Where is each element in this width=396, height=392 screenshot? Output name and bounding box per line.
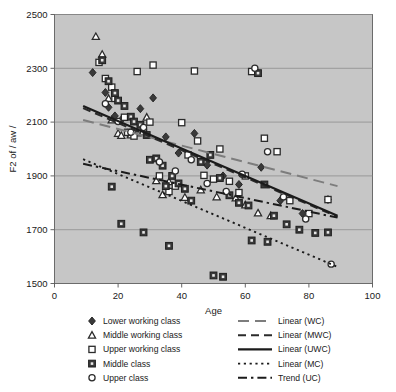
point-4-6 bbox=[188, 157, 194, 163]
point-3-37-core bbox=[266, 241, 269, 244]
point-2-27 bbox=[191, 68, 197, 74]
point-3-23-core bbox=[257, 72, 260, 75]
point-3-33-core bbox=[168, 245, 171, 248]
legend-marker-0 bbox=[89, 317, 96, 325]
point-2-17 bbox=[217, 146, 223, 152]
point-4-10 bbox=[252, 65, 258, 71]
point-3-32-core bbox=[142, 231, 145, 234]
x-tick-label-20: 20 bbox=[113, 290, 124, 301]
point-3-25-core bbox=[273, 214, 276, 217]
x-tick-label-60: 60 bbox=[240, 290, 251, 301]
point-2-12 bbox=[179, 120, 185, 126]
point-3-5-core bbox=[130, 115, 133, 118]
point-2-8 bbox=[147, 119, 153, 125]
point-3-27-core bbox=[298, 228, 301, 231]
point-2-18 bbox=[226, 178, 232, 184]
x-tick-label-0: 0 bbox=[52, 290, 57, 301]
point-3-17-core bbox=[199, 161, 202, 164]
y-tick-label-1700: 1700 bbox=[26, 224, 47, 235]
legend-label-0: Lower working class bbox=[103, 316, 180, 326]
legend-marker-3-core bbox=[91, 362, 94, 365]
point-2-29 bbox=[134, 68, 140, 74]
legend-line-label-1: Linear (MWC) bbox=[278, 330, 332, 340]
point-3-35-core bbox=[222, 275, 225, 278]
point-3-29-core bbox=[327, 231, 330, 234]
point-3-30-core bbox=[110, 185, 113, 188]
y-tick-label-2300: 2300 bbox=[26, 63, 47, 74]
point-2-22 bbox=[261, 135, 267, 141]
legend: Lower working classMiddle working classU… bbox=[88, 316, 331, 383]
point-4-3 bbox=[140, 124, 146, 130]
point-3-9-core bbox=[149, 158, 152, 161]
legend-marker-2 bbox=[89, 346, 95, 352]
point-3-12-core bbox=[165, 185, 168, 188]
point-3-0-core bbox=[101, 59, 104, 62]
y-tick-label-2500: 2500 bbox=[26, 9, 47, 20]
point-4-11 bbox=[264, 149, 270, 155]
point-3-21-core bbox=[238, 202, 241, 205]
point-2-23 bbox=[274, 149, 280, 155]
point-4-13 bbox=[303, 216, 309, 222]
point-3-36-core bbox=[250, 239, 253, 242]
point-2-15 bbox=[201, 172, 207, 178]
y-axis: 150017001900210023002500 bbox=[26, 9, 54, 289]
scatter-chart-figure: 150017001900210023002500020406080100AgeF… bbox=[0, 0, 396, 392]
legend-label-2: Upper working class bbox=[103, 344, 180, 354]
point-3-34-core bbox=[212, 274, 215, 277]
point-3-26-core bbox=[285, 223, 288, 226]
point-4-12 bbox=[280, 194, 286, 200]
legend-line-label-0: Linear (WC) bbox=[278, 316, 324, 326]
point-3-1-core bbox=[107, 80, 110, 83]
point-4-0 bbox=[102, 101, 108, 107]
x-tick-label-40: 40 bbox=[176, 290, 187, 301]
legend-line-label-2: Linear (UWC) bbox=[278, 344, 331, 354]
point-3-4-core bbox=[123, 105, 126, 108]
y-tick-label-1500: 1500 bbox=[26, 278, 47, 289]
point-3-15-core bbox=[184, 188, 187, 191]
legend-line-label-3: Linear (MC) bbox=[278, 359, 324, 369]
y-tick-label-1900: 1900 bbox=[26, 170, 47, 181]
point-3-31-core bbox=[120, 222, 123, 225]
point-3-2-core bbox=[114, 92, 117, 95]
point-2-4 bbox=[121, 114, 127, 120]
x-tick-label-80: 80 bbox=[304, 290, 315, 301]
legend-label-4: Upper class bbox=[103, 373, 148, 383]
x-axis-title: Age bbox=[205, 305, 222, 316]
y-axis-title: F2 of / aw / bbox=[7, 125, 18, 172]
legend-label-1: Middle working class bbox=[103, 330, 182, 340]
chart-svg: 150017001900210023002500020406080100AgeF… bbox=[0, 0, 396, 392]
point-4-7 bbox=[204, 180, 210, 186]
point-2-16 bbox=[210, 176, 216, 182]
point-3-18-core bbox=[209, 154, 212, 157]
legend-marker-4 bbox=[89, 375, 95, 381]
point-4-4 bbox=[156, 159, 162, 165]
legend-line-label-4: Trend (UC) bbox=[278, 373, 321, 383]
point-3-28-core bbox=[314, 232, 317, 235]
point-2-19 bbox=[236, 189, 242, 195]
point-2-24 bbox=[287, 198, 293, 204]
point-2-28 bbox=[150, 62, 156, 68]
point-3-19-core bbox=[219, 177, 222, 180]
point-2-14 bbox=[195, 138, 201, 144]
x-tick-label-100: 100 bbox=[365, 290, 381, 301]
point-3-3-core bbox=[117, 99, 120, 102]
point-2-26 bbox=[325, 196, 331, 202]
point-4-5 bbox=[172, 168, 178, 174]
x-axis: 020406080100 bbox=[52, 284, 381, 301]
y-tick-label-2100: 2100 bbox=[26, 116, 47, 127]
point-2-9 bbox=[156, 173, 162, 179]
point-3-22-core bbox=[247, 204, 250, 207]
point-3-6-core bbox=[133, 120, 136, 123]
point-3-13-core bbox=[171, 175, 174, 178]
legend-label-3: Middle class bbox=[103, 359, 150, 369]
point-3-16-core bbox=[190, 199, 193, 202]
legend-marker-1 bbox=[88, 332, 95, 339]
